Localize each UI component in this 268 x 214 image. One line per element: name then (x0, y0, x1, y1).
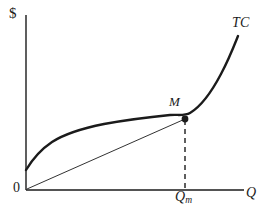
total-cost-curve (26, 36, 238, 170)
chart-canvas (0, 0, 268, 214)
qm-tick-label-subscript: m (185, 195, 192, 205)
tangency-point-label: M (169, 95, 180, 108)
y-axis-label: $ (9, 6, 17, 21)
total-cost-curve-figure: $ 0 Q Qm TC M (0, 0, 268, 214)
origin-label: 0 (13, 181, 20, 195)
tangency-point-marker (182, 116, 189, 123)
x-axis-label: Q (246, 186, 256, 200)
qm-tick-label-base: Q (175, 189, 185, 204)
qm-tick-label: Qm (175, 190, 192, 206)
ray-from-origin (27, 119, 185, 189)
tc-curve-label: TC (232, 16, 250, 30)
